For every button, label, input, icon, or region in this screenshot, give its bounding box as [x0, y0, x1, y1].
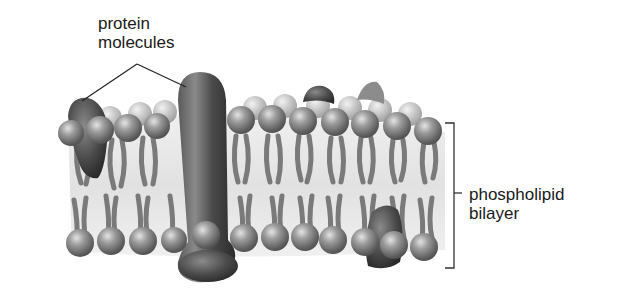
label-line: bilayer [469, 204, 564, 223]
protein-molecules-label: protein molecules [98, 14, 175, 52]
protein-leader-lines [82, 64, 186, 101]
membrane-illustration [0, 0, 625, 301]
protein-integral-base [178, 250, 238, 282]
label-line: phospholipid [469, 185, 564, 204]
phospholipid-bilayer-label: phospholipid bilayer [469, 185, 564, 223]
label-line: molecules [98, 33, 175, 52]
label-line: protein [98, 14, 175, 33]
bilayer-bracket [445, 123, 462, 268]
membrane-diagram: protein molecules phospholipid bilayer [0, 0, 625, 301]
protein-top-right [357, 82, 384, 104]
